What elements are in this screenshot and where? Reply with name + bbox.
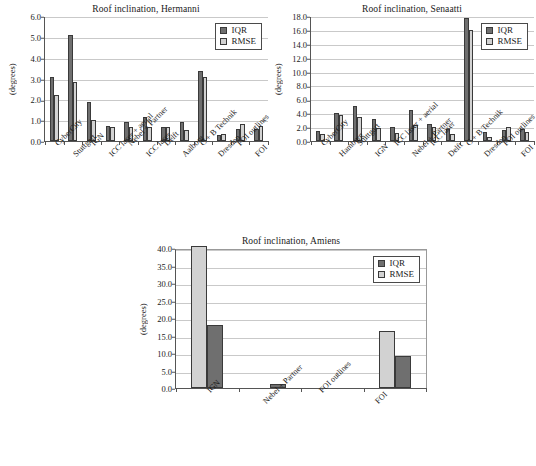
chart-legend: IQRRMSE: [481, 23, 528, 50]
chart-panel-hermanni: Roof inclination, Hermanni (degrees) 0.0…: [6, 4, 268, 232]
bar-rmse: [110, 127, 115, 141]
chart-title: Roof inclination, Amiens: [137, 236, 427, 246]
chart-panel-senaatti: Roof inclination, Senaatti (degrees) 0.0…: [272, 4, 534, 232]
legend-label: RMSE: [231, 37, 256, 46]
y-tick-label: 3.0: [30, 75, 41, 84]
x-tick-label: IGN: [374, 143, 390, 159]
legend-label: IQR: [231, 26, 247, 35]
y-tick-label: 2.0: [30, 96, 41, 105]
bar-group: [176, 250, 239, 388]
y-tick-label: 2.0: [296, 124, 307, 133]
legend-label: RMSE: [497, 37, 522, 46]
bar-group: [385, 17, 404, 141]
y-tick-label: 18.0: [292, 13, 307, 22]
y-axis-label: (degrees): [6, 17, 18, 142]
legend-label: RMSE: [389, 270, 414, 279]
x-tick-label: Delft: [447, 141, 465, 159]
y-tick-label: 0.0: [161, 385, 172, 394]
legend-swatch-rmse-icon: [220, 38, 227, 45]
legend-item-rmse: RMSE: [378, 270, 414, 279]
bar-rmse: [379, 331, 395, 388]
y-tick-label: 12.0: [292, 54, 307, 63]
bar-rmse: [191, 246, 207, 388]
y-tick-label: 20.0: [157, 315, 172, 324]
y-tick-label: 30.0: [157, 280, 172, 289]
y-tick-label: 5.0: [161, 367, 172, 376]
legend-swatch-iqr-icon: [220, 27, 227, 34]
x-tick-label: FOI: [374, 391, 389, 406]
y-tick-label: 0.0: [30, 138, 41, 147]
y-axis-label: (degrees): [137, 249, 149, 389]
legend-swatch-rmse-icon: [486, 38, 493, 45]
y-tick-label: 5.0: [30, 34, 41, 43]
y-tick-label: 35.0: [157, 262, 172, 271]
x-tick-label: FOI: [254, 144, 269, 159]
bar-iqr: [395, 356, 411, 388]
y-tick-label: 1.0: [30, 117, 41, 126]
x-axis-labels: IGNNebel + PartnerFOI outlinesFOI: [175, 389, 427, 455]
y-tick-label: 15.0: [157, 332, 172, 341]
y-tick-label: 16.0: [292, 27, 307, 36]
bar-rmse: [184, 130, 189, 141]
y-tick-label: 14.0: [292, 41, 307, 50]
x-tick: [534, 141, 535, 145]
y-tick-label: 8.0: [296, 82, 307, 91]
legend-swatch-iqr-icon: [486, 27, 493, 34]
legend-item-iqr: IQR: [486, 26, 522, 35]
bar-group: [348, 17, 367, 141]
legend-swatch-rmse-icon: [378, 271, 385, 278]
x-tick-label: FOI: [520, 144, 535, 159]
chart-legend: IQRRMSE: [215, 23, 262, 50]
y-tick-label: 40.0: [157, 245, 172, 254]
y-tick-label: 4.0: [30, 54, 41, 63]
bar-group: [301, 250, 364, 388]
y-tick-label: 25.0: [157, 297, 172, 306]
bar-group: [311, 17, 330, 141]
y-tick-label: 10.0: [157, 350, 172, 359]
bar-rmse: [525, 132, 530, 141]
bar-group: [101, 17, 120, 141]
bar-rmse: [221, 134, 226, 141]
legend-item-iqr: IQR: [378, 259, 414, 268]
bar-group: [119, 17, 138, 141]
chart-title: Roof inclination, Hermanni: [6, 4, 268, 14]
legend-item-iqr: IQR: [220, 26, 256, 35]
y-tick-label: 4.0: [296, 110, 307, 119]
y-axis-label: (degrees): [272, 17, 284, 142]
y-tick-label: 0.0: [296, 138, 307, 147]
chart-legend: IQRRMSE: [373, 256, 420, 283]
legend-item-rmse: RMSE: [220, 37, 256, 46]
y-axis-ticks: 0.01.02.03.04.05.06.0: [18, 17, 44, 142]
legend-item-rmse: RMSE: [486, 37, 522, 46]
bar-rmse: [469, 30, 474, 141]
bar-rmse: [450, 134, 455, 141]
bar-group: [460, 17, 479, 141]
y-tick-label: 6.0: [296, 96, 307, 105]
x-axis-labels: CyberCityStuttgartIGNICC laser + aerialN…: [44, 142, 268, 208]
y-tick-label: 6.0: [30, 13, 41, 22]
bar-group: [194, 17, 213, 141]
plot-row: (degrees) 0.05.010.015.020.025.030.035.0…: [137, 249, 427, 389]
chart-panel-amiens: Roof inclination, Amiens (degrees) 0.05.…: [137, 236, 427, 464]
legend-label: IQR: [497, 26, 513, 35]
x-tick: [268, 141, 269, 145]
chart-title: Roof inclination, Senaatti: [272, 4, 534, 14]
legend-swatch-iqr-icon: [378, 260, 385, 267]
bar-group: [156, 17, 175, 141]
bar-rmse: [54, 95, 59, 141]
y-tick-label: 10.0: [292, 68, 307, 77]
bar-group: [82, 17, 101, 141]
bar-group: [175, 17, 194, 141]
bar-group: [45, 17, 64, 141]
y-axis-ticks: 0.05.010.015.020.025.030.035.040.0: [149, 249, 175, 389]
legend-label: IQR: [389, 259, 405, 268]
x-axis-labels: CyberCityHamburgStuttgartIGNICC laser + …: [310, 142, 534, 208]
y-axis-ticks: 0.02.04.06.08.010.012.014.016.018.0: [284, 17, 310, 142]
